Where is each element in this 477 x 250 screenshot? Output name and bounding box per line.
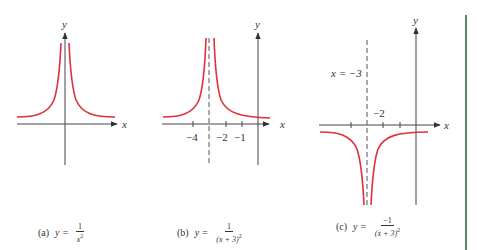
caption-a: (a) y = 1 x2	[38, 222, 85, 244]
denominator-base: (x + 3)	[375, 229, 397, 238]
numerator: 1	[225, 222, 233, 232]
y-axis-label: y	[254, 18, 260, 30]
exponent: 2	[397, 227, 400, 233]
panel-b-graph: x y −4 −2 −1	[162, 18, 285, 165]
x-axis-label: x	[121, 118, 127, 130]
x-axis-label: x	[443, 119, 449, 131]
fraction: 1 x2	[75, 222, 86, 244]
denominator: x2	[75, 232, 86, 244]
caption-lhs: y =	[195, 227, 209, 238]
fraction: −1 (x + 3)2	[373, 216, 402, 238]
caption-lhs: y =	[353, 221, 367, 232]
denominator: (x + 3)2	[373, 226, 402, 238]
tick-label: −1	[234, 131, 246, 143]
caption-b: (b) y = 1 (x + 3)2	[177, 222, 244, 244]
panel-c-graph: x y x = −3 −2	[319, 14, 449, 205]
curve-left	[320, 132, 364, 205]
figure-canvas: x y x y −4 −2 −1 x y x = −3 −2	[0, 0, 477, 250]
fraction: 1 (x + 3)2	[214, 222, 243, 244]
curve-left	[17, 43, 61, 117]
exponent: 2	[239, 233, 242, 239]
curve-left	[163, 38, 206, 117]
numerator: −1	[381, 216, 394, 226]
y-axis-label: y	[412, 14, 418, 26]
caption-label: (c)	[336, 221, 347, 232]
curve-right	[69, 43, 115, 117]
denominator-base: (x + 3)	[216, 235, 238, 244]
y-axis-label: y	[61, 18, 67, 30]
denominator: (x + 3)2	[214, 232, 243, 244]
tick-label: −2	[216, 131, 228, 143]
curve-right	[214, 38, 270, 118]
caption-label: (b)	[177, 227, 189, 238]
panel-a-graph: x y	[17, 18, 127, 165]
x-axis-label: x	[279, 118, 285, 130]
numerator: 1	[76, 222, 84, 232]
caption-lhs: y =	[55, 227, 69, 238]
tick-label: −2	[373, 107, 385, 119]
exponent: 2	[80, 233, 83, 239]
curve-right	[371, 132, 428, 205]
caption-c: (c) y = −1 (x + 3)2	[336, 216, 402, 238]
asymptote-label: x = −3	[330, 67, 362, 79]
caption-label: (a)	[38, 227, 49, 238]
tick-label: −4	[186, 131, 198, 143]
